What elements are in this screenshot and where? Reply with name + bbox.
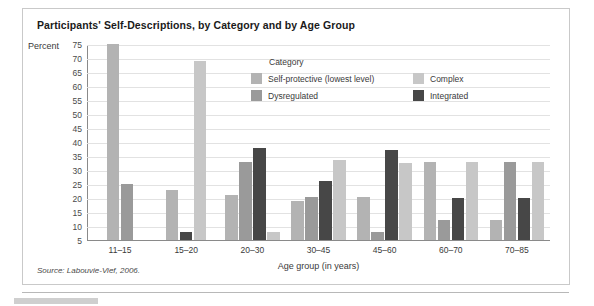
bar: [490, 220, 503, 240]
legend-label-integrated: Integrated: [430, 91, 468, 101]
y-axis-tick-label: 20: [62, 194, 82, 204]
legend-swatch-dysregulated: [251, 90, 262, 101]
bar: [253, 148, 266, 240]
bar: [399, 163, 412, 240]
bar: [239, 162, 252, 240]
bar: [333, 160, 346, 240]
y-axis-tick-label: 35: [62, 152, 82, 162]
bar: [424, 162, 437, 240]
y-axis-tick-label: 70: [62, 54, 82, 64]
legend-item-integrated: Integrated: [413, 90, 468, 101]
bar: [225, 195, 238, 240]
x-axis-tick-label: 45–60: [373, 245, 397, 255]
bar: [267, 232, 280, 240]
bar: [452, 198, 465, 240]
x-axis-tick-label: 11–15: [109, 245, 132, 255]
y-axis-tick-label: 50: [62, 110, 82, 120]
y-axis-tick-label: 45: [62, 124, 82, 134]
x-axis-label: Age group (in years): [87, 261, 550, 271]
x-axis-tick-label: 60–70: [439, 245, 463, 255]
source-note: Source: Labouvie-Vief, 2006.: [37, 266, 140, 275]
bar: [371, 232, 384, 240]
x-axis-tick-label: 30–45: [307, 245, 331, 255]
bar: [438, 220, 451, 240]
bar: [504, 162, 517, 240]
y-axis-tick-label: 75: [62, 40, 82, 50]
y-axis-tick-label: 65: [62, 68, 82, 78]
bar: [319, 181, 332, 240]
legend-label-complex: Complex: [430, 74, 464, 84]
bar: [194, 61, 207, 240]
bar: [107, 44, 120, 240]
bar: [180, 232, 193, 240]
bar: [357, 197, 370, 240]
bar-group: 15–20: [153, 44, 219, 240]
y-axis-tick-label: 25: [62, 180, 82, 190]
y-axis-tick-label: 10: [62, 222, 82, 232]
y-axis-label: Percent: [28, 41, 59, 51]
bar: [466, 162, 479, 240]
legend-item-complex: Complex: [413, 73, 464, 84]
y-axis-tick-label: 55: [62, 96, 82, 106]
bar: [121, 184, 134, 240]
x-axis-line: [87, 240, 550, 241]
bar: [305, 197, 318, 240]
x-axis-tick-label: 15–20: [174, 245, 198, 255]
figure-panel: Participants' Self-Descriptions, by Cate…: [22, 8, 570, 285]
x-axis-tick-label: 70–85: [505, 245, 529, 255]
y-axis-tick-label: 40: [62, 138, 82, 148]
legend-item-self-protective: Self-protective (lowest level): [251, 73, 413, 84]
y-axis-tick-label: 15: [62, 208, 82, 218]
legend-item-dysregulated: Dysregulated: [251, 90, 413, 101]
legend-swatch-self-protective: [251, 73, 262, 84]
chart-legend: Category Self-protective (lowest level) …: [251, 57, 509, 107]
legend-title: Category: [251, 57, 509, 67]
legend-swatch-integrated: [413, 90, 424, 101]
bar: [518, 198, 531, 240]
y-axis-tick-label: 30: [62, 166, 82, 176]
bottom-tab-marker: [14, 298, 98, 304]
y-axis-tick-label: 60: [62, 82, 82, 92]
bottom-divider: [22, 292, 569, 293]
bar: [532, 162, 545, 240]
legend-label-self-protective: Self-protective (lowest level): [268, 74, 374, 84]
page-title: Participants' Self-Descriptions, by Cate…: [37, 19, 355, 31]
bar-group: 11–15: [87, 44, 153, 240]
bar: [291, 201, 304, 240]
legend-label-dysregulated: Dysregulated: [268, 91, 318, 101]
legend-row: Self-protective (lowest level) Complex: [251, 73, 509, 84]
y-axis-tick-label: 5: [62, 236, 82, 246]
bar: [166, 190, 179, 240]
x-axis-tick-label: 20–30: [241, 245, 265, 255]
legend-row: Dysregulated Integrated: [251, 90, 509, 101]
legend-swatch-complex: [413, 73, 424, 84]
bar: [385, 150, 398, 240]
